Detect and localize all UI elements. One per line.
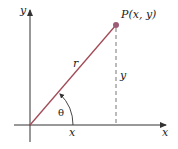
horizontal-leg-label: x <box>69 126 76 139</box>
point-label: P(x, y) <box>120 8 156 21</box>
point-p-dot <box>113 22 119 28</box>
x-axis-label: x <box>162 126 169 139</box>
angle-label: θ <box>58 107 64 118</box>
radius-line <box>30 25 116 125</box>
vertical-leg-label: y <box>119 69 127 82</box>
y-axis-label: y <box>19 4 27 17</box>
polar-coordinates-diagram: y x P(x, y) r y x θ <box>0 0 178 149</box>
radius-label: r <box>73 57 79 70</box>
